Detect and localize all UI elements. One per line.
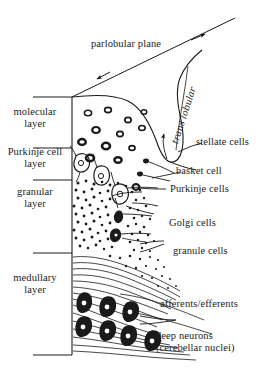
parlobular-plane-line [72, 18, 235, 97]
label-granular-layer: granular layer [2, 186, 68, 210]
cerebellum-diagram: molecular layer Purkinje cell layer gran… [0, 0, 259, 372]
label-granular-layer-line1: granular [2, 186, 68, 198]
label-basket-cell-text: basket cell [176, 165, 222, 176]
layer-boundary-axis [33, 97, 72, 355]
label-purkinje-cell-layer: Purkinje cell layer [0, 146, 70, 170]
label-medullary-layer-line1: medullary [2, 272, 68, 284]
label-granular-layer-line2: layer [2, 198, 68, 210]
stellate-cells-group [78, 107, 147, 162]
label-parlobular-plane-text: parlobular plane [91, 38, 161, 49]
label-deep-neurons-line2: (cerebellar nuclei) [156, 342, 235, 354]
label-golgi-cells: Golgi cells [169, 217, 216, 229]
label-purkinje-cells-text: Purkinje cells [170, 183, 229, 194]
granule-cell-leader [140, 241, 164, 252]
label-afferents-efferents-text: afferents/efferents [160, 298, 238, 309]
label-medullary-layer: medullary layer [2, 272, 68, 296]
label-granule-cells-text: granule cells [173, 245, 228, 256]
golgi-cells-group [110, 198, 152, 242]
label-molecular-layer-line1: molecular [2, 106, 68, 118]
label-purkinje-cell-layer-line2: layer [0, 158, 70, 170]
label-stellate-cells: stellate cells [196, 136, 249, 148]
label-granule-cells: granule cells [173, 245, 228, 257]
label-deep-neurons: deep neurons (cerebellar nuclei) [156, 330, 235, 354]
label-afferents-efferents: afferents/efferents [160, 298, 238, 310]
purkinje-cells-group [70, 146, 158, 214]
label-parlobular-plane: parlobular plane [64, 38, 188, 50]
basket-cells-group [133, 159, 174, 190]
label-basket-cell: basket cell [176, 165, 222, 177]
label-purkinje-cells: Purkinje cells [170, 183, 229, 195]
label-purkinje-cell-layer-line1: Purkinje cell [0, 146, 70, 158]
label-molecular-layer: molecular layer [2, 106, 68, 130]
label-molecular-layer-line2: layer [2, 118, 68, 130]
label-stellate-cells-text: stellate cells [196, 136, 249, 147]
granule-cells-stipple [73, 180, 177, 289]
label-golgi-cells-text: Golgi cells [169, 217, 216, 228]
label-medullary-layer-line2: layer [2, 284, 68, 296]
label-deep-neurons-line1: deep neurons [156, 330, 235, 342]
